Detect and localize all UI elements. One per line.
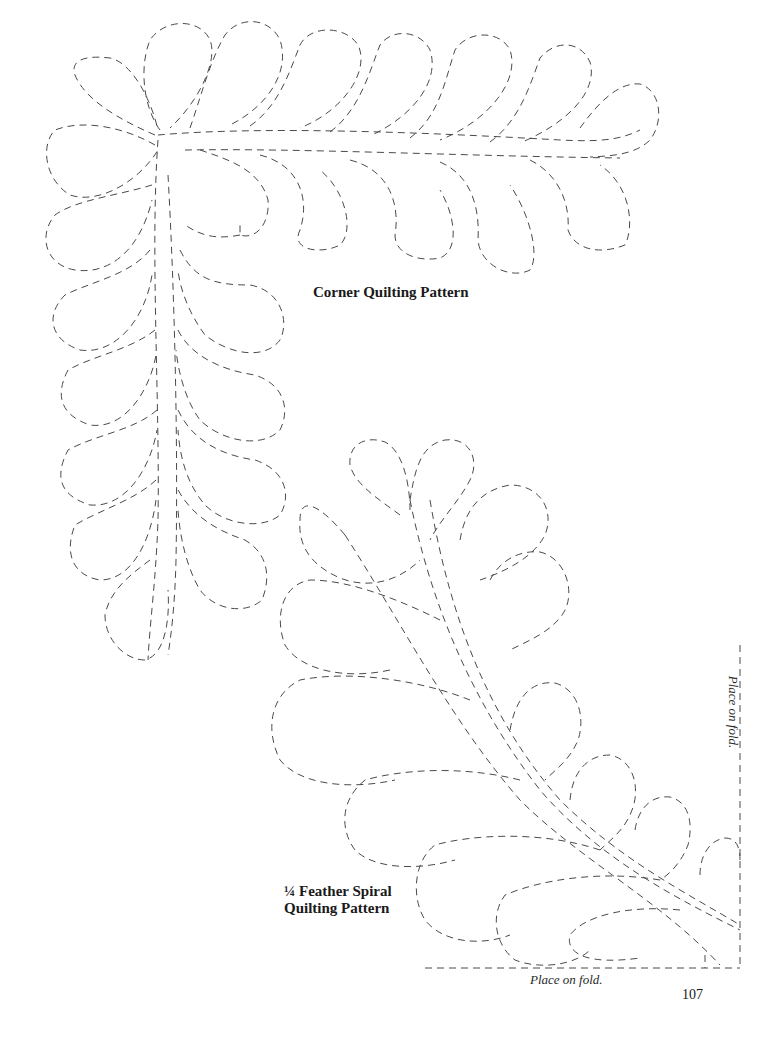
page-number: 107 [682,987,703,1003]
fold-label-bottom: Place on fold. [530,972,603,988]
spiral-title-line-2: Quilting Pattern [284,900,392,917]
pattern-page: Corner Quilting Pattern ¼ Feather Spiral… [0,0,761,1042]
spiral-pattern-title: ¼ Feather Spiral Quilting Pattern [284,883,392,917]
spiral-title-line-1: ¼ Feather Spiral [284,883,392,900]
feather-corner-icon [46,22,659,660]
fold-label-right: Place on fold. [725,667,741,757]
corner-pattern-title: Corner Quilting Pattern [313,284,469,301]
